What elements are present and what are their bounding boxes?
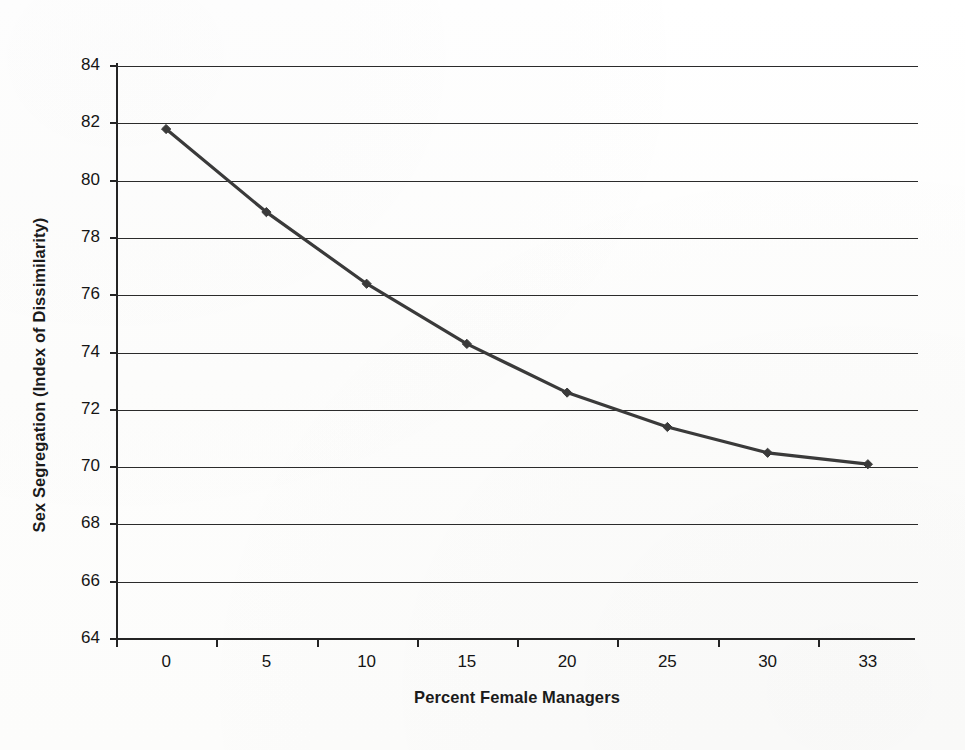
x-tick-label: 30 (738, 652, 798, 672)
gridline (116, 467, 918, 468)
y-tick-mark (110, 409, 117, 411)
gridline (116, 295, 918, 296)
y-tick-label: 68 (54, 513, 100, 533)
x-tick-mark (818, 639, 820, 647)
y-tick-mark (110, 466, 117, 468)
gridline (116, 582, 918, 583)
gridline (116, 524, 918, 525)
y-tick-mark (110, 352, 117, 354)
x-tick-mark (718, 639, 720, 647)
gridline (116, 66, 918, 67)
gridline (116, 181, 918, 182)
gridline (116, 123, 918, 124)
x-tick-mark (116, 639, 118, 647)
x-tick-label: 0 (136, 652, 196, 672)
x-tick-label: 25 (637, 652, 697, 672)
x-tick-mark (216, 639, 218, 647)
gridline (116, 410, 918, 411)
x-tick-mark (417, 639, 419, 647)
x-axis-title: Percent Female Managers (116, 688, 918, 707)
y-tick-label: 70 (54, 456, 100, 476)
y-tick-mark (110, 237, 117, 239)
y-tick-mark (110, 180, 117, 182)
y-tick-label: 78 (54, 227, 100, 247)
y-tick-mark (110, 65, 117, 67)
x-tick-label: 5 (236, 652, 296, 672)
y-tick-mark (110, 523, 117, 525)
y-tick-label: 74 (54, 342, 100, 362)
y-tick-label: 82 (54, 112, 100, 132)
y-tick-label: 72 (54, 399, 100, 419)
x-tick-label: 33 (838, 652, 898, 672)
y-tick-label: 84 (54, 55, 100, 75)
y-tick-label: 76 (54, 284, 100, 304)
x-tick-mark (317, 639, 319, 647)
plot-area (116, 66, 918, 639)
y-tick-mark (110, 122, 117, 124)
y-tick-label: 80 (54, 170, 100, 190)
x-tick-mark (617, 639, 619, 647)
gridline (116, 238, 918, 239)
y-tick-label: 66 (54, 571, 100, 591)
y-tick-mark (110, 294, 117, 296)
y-tick-mark (110, 581, 117, 583)
x-tick-label: 15 (437, 652, 497, 672)
gridline (116, 353, 918, 354)
x-tick-mark (517, 639, 519, 647)
chart-figure: Sex Segregation (Index of Dissimilarity)… (0, 0, 965, 750)
x-tick-label: 20 (537, 652, 597, 672)
y-tick-label: 64 (54, 628, 100, 648)
x-tick-label: 10 (337, 652, 397, 672)
